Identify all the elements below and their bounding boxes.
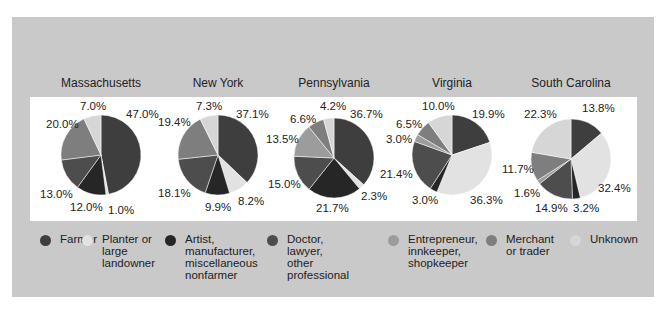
data-label: 1.0% — [108, 204, 134, 216]
data-label: 21.7% — [316, 202, 349, 214]
legend-label: Artist, manufacturer, miscellaneous nonf… — [185, 233, 258, 281]
data-label: 12.0% — [70, 201, 103, 213]
data-label: 3.0% — [386, 133, 412, 145]
data-label: 1.6% — [514, 187, 540, 199]
data-label: 20.0% — [46, 118, 79, 130]
legend-item: Doctor, lawyer, other professional — [267, 233, 349, 281]
legend-item: Merchant or trader — [486, 233, 554, 257]
data-label: 7.0% — [80, 100, 106, 112]
data-label: 10.0% — [422, 100, 455, 112]
legend-swatch-icon — [165, 235, 176, 246]
data-label: 15.0% — [268, 178, 301, 190]
legend-swatch-icon — [570, 235, 581, 246]
data-label: 37.1% — [236, 108, 269, 120]
legend-swatch-icon — [40, 235, 51, 246]
legend-item: Unknown — [570, 233, 638, 246]
data-label: 4.2% — [320, 100, 346, 112]
legend-label: Entrepreneur, innkeeper, shopkeeper — [408, 233, 478, 269]
legend-item: Entrepreneur, innkeeper, shopkeeper — [388, 233, 478, 269]
data-label: 36.7% — [350, 108, 383, 120]
legend-item: Artist, manufacturer, miscellaneous nonf… — [165, 233, 258, 281]
data-label: 3.0% — [412, 194, 438, 206]
data-label: 21.4% — [380, 168, 413, 180]
data-label: 3.2% — [573, 202, 599, 214]
data-label: 19.4% — [158, 116, 191, 128]
legend-item: Planter or large landowner — [82, 233, 155, 269]
data-label: 8.2% — [238, 195, 264, 207]
legend-swatch-icon — [267, 235, 278, 246]
data-label: 6.6% — [290, 113, 316, 125]
data-label: 13.5% — [266, 133, 299, 145]
legend-swatch-icon — [486, 235, 497, 246]
data-label: 6.5% — [396, 118, 422, 130]
data-label: 11.7% — [502, 163, 534, 175]
data-label: 13.0% — [40, 188, 73, 200]
legend-label: Unknown — [590, 233, 638, 245]
pie-slice — [101, 115, 141, 194]
legend-label: Planter or large landowner — [102, 233, 155, 269]
legend-label: Doctor, lawyer, other professional — [287, 233, 349, 281]
legend-swatch-icon — [388, 235, 399, 246]
pie-slice — [532, 119, 571, 159]
pie-pennsylvania — [294, 118, 374, 198]
data-label: 9.9% — [205, 201, 231, 213]
data-label: 32.4% — [598, 182, 631, 194]
legend-swatch-icon — [82, 235, 93, 246]
legend-label: Merchant or trader — [506, 233, 554, 257]
data-label: 22.3% — [524, 108, 557, 120]
data-label: 7.3% — [196, 100, 222, 112]
data-label: 19.9% — [472, 108, 505, 120]
data-label: 13.8% — [582, 102, 615, 114]
pie-virginia — [412, 115, 492, 195]
data-label: 14.9% — [535, 202, 568, 214]
data-label: 18.1% — [158, 187, 191, 199]
data-label: 2.3% — [361, 190, 387, 202]
data-label: 47.0% — [126, 108, 159, 120]
data-label: 36.3% — [470, 194, 503, 206]
